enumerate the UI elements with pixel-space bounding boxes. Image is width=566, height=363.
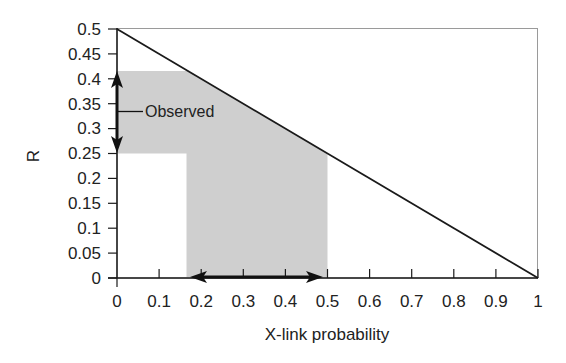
y-tick-label: 0.2 [77,169,101,188]
chart: 0 0.05 0.1 0.15 0.2 0.25 0.3 0.35 0.4 0.… [0,0,566,363]
y-ticks [108,29,117,278]
observed-label: Observed [145,103,214,120]
y-tick-label: 0.35 [68,95,101,114]
x-tick-label: 0.3 [231,292,255,311]
y-tick-label: 0.4 [77,70,101,89]
x-tick-label: 0.1 [147,292,171,311]
y-tick-label: 0.25 [68,144,101,163]
x-tick-label: 0 [112,292,121,311]
y-tick-labels: 0 0.05 0.1 0.15 0.2 0.25 0.3 0.35 0.4 0.… [68,20,101,288]
x-tick-label: 0.4 [274,292,298,311]
y-tick-label: 0 [92,269,101,288]
x-tick-label: 0.8 [442,292,466,311]
y-tick-label: 0.1 [77,219,101,238]
x-tick-label: 1 [533,292,542,311]
x-tick-label: 0.7 [400,292,424,311]
y-tick-label: 0.5 [77,20,101,39]
x-tick-label: 0.9 [484,292,508,311]
y-tick-label: 0.05 [68,244,101,263]
y-tick-label: 0.3 [77,119,101,138]
x-tick-label: 0.2 [189,292,213,311]
x-tick-label: 0.6 [358,292,382,311]
x-tick-label: 0.5 [316,292,340,311]
x-axis-label: X-link probability [265,325,390,344]
y-axis-label: R [24,150,43,162]
y-tick-label: 0.45 [68,45,101,64]
y-tick-label: 0.15 [68,194,101,213]
x-tick-labels: 0 0.1 0.2 0.3 0.4 0.5 0.6 0.7 0.8 0.9 1 [112,292,542,311]
